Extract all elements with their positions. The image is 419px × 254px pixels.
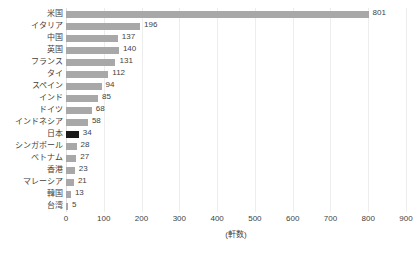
bar: [66, 191, 71, 198]
bar-value-label: 13: [75, 187, 84, 199]
bar-value-label: 27: [80, 151, 89, 163]
bar-row: 68: [66, 104, 406, 116]
plot-area: 801196137140131112948568583428272321135: [66, 8, 406, 212]
category-label: 韓国: [47, 188, 63, 200]
bar-row: 58: [66, 116, 406, 128]
category-label: ベトナム: [31, 152, 63, 164]
bar: [66, 83, 102, 90]
bar-row: 23: [66, 164, 406, 176]
bar-value-label: 28: [81, 139, 90, 151]
x-tick-label: 900: [399, 212, 412, 225]
bar: [66, 11, 369, 18]
bar-row: 21: [66, 176, 406, 188]
x-tick-label: 200: [135, 212, 148, 225]
x-tick-label: 500: [248, 212, 261, 225]
bar-value-label: 34: [83, 127, 92, 139]
category-label: 日本: [47, 128, 63, 140]
category-label: フランス: [31, 56, 63, 68]
bar-value-label: 801: [373, 7, 386, 19]
category-label: 米国: [47, 8, 63, 20]
bar: [66, 35, 118, 42]
bar-row: 196: [66, 20, 406, 32]
bar-value-label: 23: [79, 163, 88, 175]
category-label: イタリア: [31, 20, 63, 32]
bar: [66, 179, 74, 186]
bar-value-label: 68: [96, 103, 105, 115]
x-tick-label: 100: [97, 212, 110, 225]
bar-series: 801196137140131112948568583428272321135: [66, 8, 406, 212]
category-label: スペイン: [32, 80, 63, 92]
bar-value-label: 94: [106, 79, 115, 91]
bar-row: 34: [66, 128, 406, 140]
x-tick-label: 600: [286, 212, 299, 225]
bar: [66, 47, 119, 54]
bar-row: 13: [66, 188, 406, 200]
category-axis: 米国イタリア中国英国フランスタイスペインインドドイツインドネシア日本シンガポール…: [0, 8, 63, 212]
bar-value-label: 131: [119, 55, 132, 67]
category-label: ドイツ: [39, 104, 63, 116]
bar-value-label: 85: [102, 91, 111, 103]
bar-row: 85: [66, 92, 406, 104]
bar: [66, 23, 140, 30]
bar: [66, 107, 92, 114]
bar-row: 5: [66, 200, 406, 212]
x-axis-title: (軒数): [66, 228, 406, 239]
bar: [66, 155, 76, 162]
category-label: インドネシア: [15, 116, 63, 128]
bar: [66, 71, 108, 78]
bar: [66, 119, 88, 126]
bar-row: 27: [66, 152, 406, 164]
category-label: インド: [39, 92, 63, 104]
category-label: シンガポール: [15, 140, 63, 152]
bar-value-label: 21: [78, 175, 87, 187]
gridline: [406, 8, 407, 212]
bar-row: 112: [66, 68, 406, 80]
bar: [66, 59, 115, 66]
bar: [66, 95, 98, 102]
x-tick-label: 800: [362, 212, 375, 225]
bar-row: 801: [66, 8, 406, 20]
x-tick-label: 700: [324, 212, 337, 225]
x-tick-label: 0: [64, 212, 68, 225]
bar-chart: 米国イタリア中国英国フランスタイスペインインドドイツインドネシア日本シンガポール…: [0, 0, 419, 254]
bar: [66, 131, 79, 138]
category-label: 中国: [47, 32, 63, 44]
category-label: 香港: [47, 164, 63, 176]
bar-row: 28: [66, 140, 406, 152]
bar: [66, 143, 77, 150]
bar-value-label: 137: [122, 31, 135, 43]
category-label: マレーシア: [23, 176, 63, 188]
x-tick-label: 400: [210, 212, 223, 225]
bar: [66, 203, 68, 210]
bar-value-label: 112: [112, 67, 125, 79]
bar-row: 94: [66, 80, 406, 92]
category-label: 英国: [47, 44, 63, 56]
category-label: 台湾: [47, 200, 63, 212]
bar-value-label: 5: [72, 199, 76, 211]
value-axis: 0100200300400500600700800900: [66, 212, 406, 226]
bar-row: 140: [66, 44, 406, 56]
bar-row: 137: [66, 32, 406, 44]
bar-value-label: 140: [123, 43, 136, 55]
category-label: タイ: [47, 68, 63, 80]
bar-value-label: 196: [144, 19, 157, 31]
x-tick-label: 300: [173, 212, 186, 225]
bar-value-label: 58: [92, 115, 101, 127]
bar: [66, 167, 75, 174]
